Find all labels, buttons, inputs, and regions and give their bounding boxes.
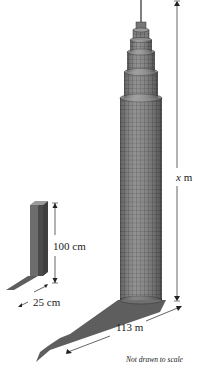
diagram-canvas <box>0 0 198 369</box>
post-shadow <box>6 276 38 290</box>
tower-shadow <box>36 300 166 362</box>
tower-height-label: x m <box>176 171 192 183</box>
post <box>30 201 48 276</box>
post-height-label: 100 cm <box>53 240 86 252</box>
tower <box>120 0 162 304</box>
scale-note: Not drawn to scale <box>126 355 183 364</box>
tower-height-dimension <box>174 1 180 301</box>
tower-shadow-label: 113 m <box>116 321 143 333</box>
post-shadow-label: 25 cm <box>33 296 60 308</box>
